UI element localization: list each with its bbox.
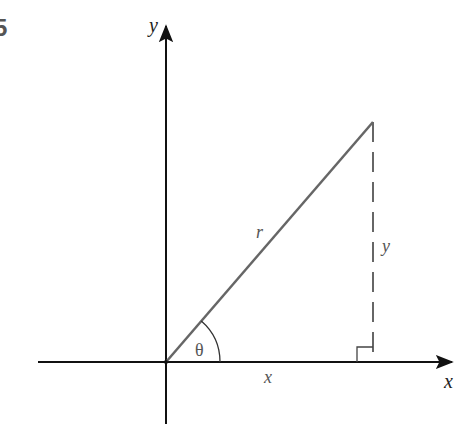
angle-arc <box>201 321 220 362</box>
figure-number: 5 <box>0 14 7 42</box>
right-angle-marker <box>357 347 373 362</box>
y-axis-label: y <box>147 14 158 37</box>
hypotenuse-r <box>166 122 373 362</box>
origin-point <box>164 360 168 364</box>
polar-coordinate-diagram: 5 y x r y x θ <box>0 0 473 446</box>
angle-theta-label: θ <box>195 340 204 360</box>
horizontal-leg-label: x <box>263 367 272 387</box>
diagram-canvas: y x r y x θ <box>0 0 473 446</box>
hypotenuse-label: r <box>256 222 264 242</box>
x-axis-label: x <box>443 370 453 392</box>
vertical-leg-label: y <box>380 236 390 256</box>
